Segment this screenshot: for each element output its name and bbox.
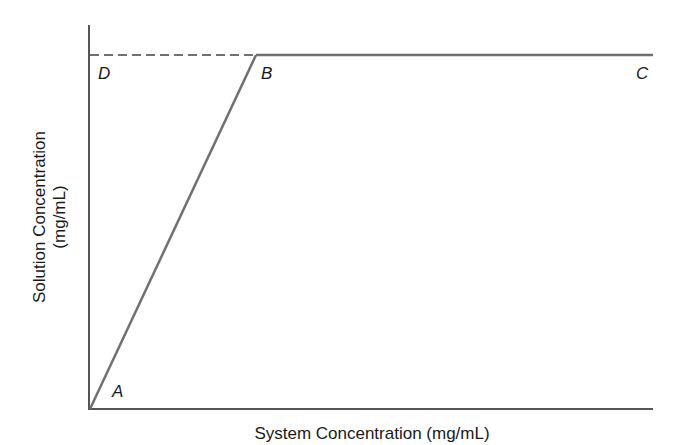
label-c: C — [636, 64, 649, 83]
x-axis-label: System Concentration (mg/mL) — [254, 424, 489, 443]
y-axis-label-line2: (mg/mL) — [50, 185, 69, 248]
phase-diagram: D B C A System Concentration (mg/mL) Sol… — [0, 0, 687, 445]
y-axis-label-line1: Solution Concentration — [30, 131, 49, 303]
label-a: A — [111, 382, 123, 401]
line-a-b — [90, 55, 256, 409]
label-b: B — [261, 64, 272, 83]
label-d: D — [98, 64, 110, 83]
